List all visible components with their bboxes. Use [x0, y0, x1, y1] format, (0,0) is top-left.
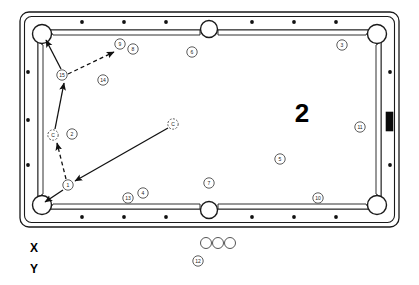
pocket-top-left: [33, 25, 52, 44]
ball-label: 11: [357, 124, 362, 130]
ball-12-16: 12: [193, 256, 203, 266]
ball-c-6: C: [48, 130, 58, 140]
diamond-bottom-4: [250, 215, 254, 219]
diamond-bottom-5: [292, 215, 296, 219]
pocket-bottom-right: [368, 196, 387, 215]
ball-3-5: 3: [337, 40, 347, 50]
ball-14-3: 14: [98, 75, 108, 85]
diamond-top-2: [122, 20, 126, 24]
ball-c-8: C: [168, 119, 178, 129]
diamond-bottom-1: [80, 215, 84, 219]
diamond-right-1: [388, 70, 392, 74]
spare-ball-3: [225, 238, 236, 249]
ball-label: 8: [132, 46, 135, 52]
ball-15-0: 15: [57, 70, 67, 80]
ball-label: 6: [191, 49, 194, 55]
spare-ball-2: [213, 238, 224, 249]
diamond-left-1: [26, 70, 30, 74]
ball-label: 3: [341, 42, 344, 48]
diamond-top-4: [250, 20, 254, 24]
ball-1-12: 1: [63, 180, 73, 190]
ball-5-10: 5: [275, 154, 285, 164]
ball-label: 4: [142, 190, 145, 196]
diamond-top-5: [292, 20, 296, 24]
ball-13-13: 13: [123, 193, 133, 203]
cushion-top-right: [218, 30, 369, 35]
ball-label: C: [51, 132, 55, 138]
diamond-bottom-2: [122, 215, 126, 219]
ball-6-4: 6: [187, 47, 197, 57]
diagram-number-label: 2: [295, 98, 309, 128]
ball-2-7: 2: [67, 129, 77, 139]
ball-label: 9: [119, 41, 122, 47]
ball-9-1: 9: [115, 39, 125, 49]
spare-ball-1: [201, 238, 212, 249]
axis-label-x: X: [30, 241, 38, 255]
ball-label: 5: [279, 156, 282, 162]
diamond-bottom-6: [334, 215, 338, 219]
pocket-bottom-middle: [201, 202, 218, 219]
ball-label: 1: [67, 182, 70, 188]
pool-table-diagram: 15981463C2C115711341012 2 X Y: [0, 0, 419, 285]
cushion-bottom-right: [218, 204, 369, 209]
diamond-top-1: [80, 20, 84, 24]
pocket-top-right: [368, 25, 387, 44]
ball-label: 12: [195, 258, 201, 264]
off-table-balls-group: [201, 238, 236, 249]
ball-label: 14: [100, 77, 106, 83]
ball-label: 15: [59, 72, 65, 78]
ball-label: C: [171, 121, 175, 127]
ball-8-2: 8: [128, 44, 138, 54]
rail-marker-bar: [386, 112, 393, 131]
diamond-right-2: [388, 163, 392, 167]
ball-4-14: 4: [138, 188, 148, 198]
diamond-left-2: [26, 118, 30, 122]
pool-table-svg: 15981463C2C115711341012 2 X Y: [0, 0, 419, 285]
cushion-top-left: [50, 30, 200, 35]
diamond-top-3: [164, 20, 168, 24]
cushion-left: [38, 42, 43, 197]
ball-label: 2: [71, 131, 74, 137]
ball-11-9: 11: [355, 122, 365, 132]
diamond-bottom-3: [164, 215, 168, 219]
ball-label: 7: [208, 180, 211, 186]
cushion-bottom-left: [50, 204, 200, 209]
ball-7-11: 7: [204, 178, 214, 188]
ball-label: 13: [125, 195, 131, 201]
diamond-top-6: [334, 20, 338, 24]
cushion-right: [376, 42, 381, 197]
ball-label: 10: [315, 195, 321, 201]
pocket-top-middle: [201, 21, 218, 38]
axis-label-y: Y: [30, 262, 38, 276]
ball-10-15: 10: [313, 193, 323, 203]
pocket-bottom-left: [33, 196, 52, 215]
diamond-left-3: [26, 163, 30, 167]
